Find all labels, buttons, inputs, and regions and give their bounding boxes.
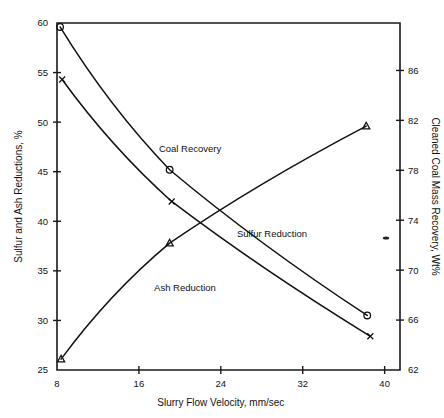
y-axis-tick-label: 40 xyxy=(37,216,48,227)
curve-label-ash-reduction: Ash Reduction xyxy=(154,282,216,293)
x-axis-tick-label: 32 xyxy=(297,378,308,389)
y-axis-tick-label: 50 xyxy=(37,117,48,128)
y2-axis-tick-label: 82 xyxy=(408,115,419,126)
y2-axis-tick-label: 86 xyxy=(408,65,419,76)
y2-axis-tick-label: 78 xyxy=(408,165,419,176)
y2-axis-tick-label: 74 xyxy=(408,215,419,226)
series-line-sulfur-reduction xyxy=(60,27,367,316)
scan-speck xyxy=(383,236,389,239)
y2-axis-tick-label: 62 xyxy=(408,364,419,375)
y-axis-title: Sulfur and Ash Reductions, % xyxy=(13,130,24,262)
x-axis-tick-label: 8 xyxy=(54,378,59,389)
curve-label-sulfur-reduction: Sulfur Reduction xyxy=(237,228,307,239)
x-axis-tick-label: 24 xyxy=(216,378,227,389)
series-line-coal-recovery xyxy=(61,126,366,359)
y-axis-tick-label: 60 xyxy=(37,17,48,28)
chart-figure: 253035404550556062667074788286816243240S… xyxy=(0,0,444,418)
y2-axis-tick-label: 70 xyxy=(408,265,419,276)
y-axis-tick-label: 30 xyxy=(37,315,48,326)
x-axis-tick-label: 40 xyxy=(379,378,390,389)
plot-frame xyxy=(57,23,400,370)
y2-axis-title: Cleaned Coal Mass Recovery, Wt% xyxy=(430,117,441,275)
x-axis-title: Slurry Flow Velocity, mm/sec xyxy=(157,397,284,408)
y2-axis-tick-label: 66 xyxy=(408,314,419,325)
x-axis-tick-label: 16 xyxy=(134,378,145,389)
y-axis-tick-label: 45 xyxy=(37,166,48,177)
chart-canvas: 253035404550556062667074788286816243240S… xyxy=(0,0,444,418)
curve-label-coal-recovery: Coal Recovery xyxy=(159,143,222,154)
y-axis-tick-label: 25 xyxy=(37,364,48,375)
y-axis-tick-label: 35 xyxy=(37,265,48,276)
y-axis-tick-label: 55 xyxy=(37,67,48,78)
